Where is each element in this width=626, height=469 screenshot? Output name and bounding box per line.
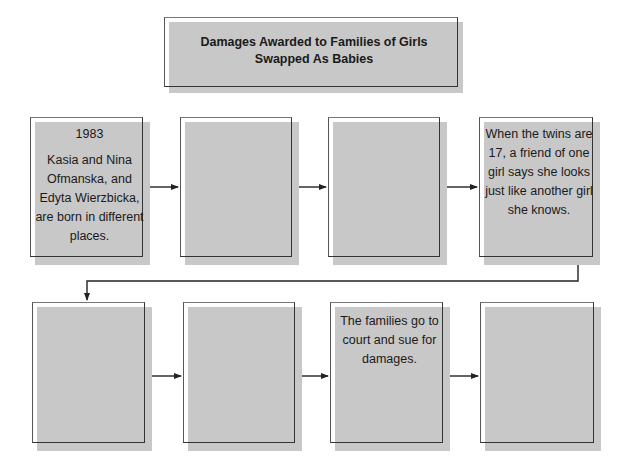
diagram-title-box: Damages Awarded to Families of Girls Swa… (164, 17, 458, 87)
event-text: When the twins are 17, a friend of one g… (481, 125, 597, 220)
sequence-box-5 (32, 302, 145, 443)
title-line-1: Damages Awarded to Families of Girls (166, 34, 462, 51)
title-line-2: Swapped As Babies (166, 51, 462, 68)
diagram-title: Damages Awarded to Families of Girls Swa… (166, 34, 462, 68)
sequence-box-7: The families go to court and sue for dam… (330, 302, 443, 443)
event-text: Kasia and Nina Ofmanska, and Edyta Wierz… (35, 153, 143, 243)
sequence-box-2 (180, 117, 292, 257)
sequence-box-4: When the twins are 17, a friend of one g… (479, 117, 593, 257)
sequence-box-6 (183, 302, 295, 443)
sequence-box-1: 1983 Kasia and Nina Ofmanska, and Edyta … (30, 117, 143, 257)
sequence-box-3 (328, 117, 440, 257)
event-text: The families go to court and sue for dam… (332, 312, 447, 369)
sequence-box-8 (480, 302, 594, 443)
event-year: 1983 (32, 125, 147, 144)
